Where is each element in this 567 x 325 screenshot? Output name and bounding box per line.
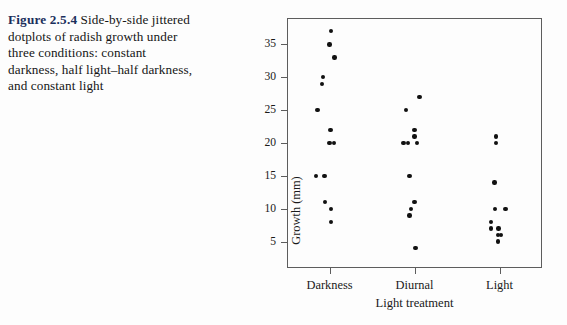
y-axis-tick xyxy=(281,44,287,45)
y-axis-tick-label: 30 xyxy=(254,71,276,83)
data-point xyxy=(332,141,336,145)
dotplot-chart: Growth (mm) 5101520253035 DarknessDiurna… xyxy=(0,0,567,325)
y-axis-title: Growth (mm) xyxy=(289,151,304,271)
data-point xyxy=(417,95,421,99)
data-point xyxy=(496,239,500,243)
data-point xyxy=(320,82,324,86)
x-axis-tick xyxy=(415,268,416,274)
y-axis-tick-label: 20 xyxy=(254,137,276,149)
data-point xyxy=(322,174,326,178)
data-point xyxy=(494,134,498,138)
x-axis-tick xyxy=(500,268,501,274)
y-axis-tick-label: 10 xyxy=(254,203,276,215)
data-point xyxy=(407,174,411,178)
y-axis-tick-label: 25 xyxy=(254,104,276,116)
y-axis-tick xyxy=(281,209,287,210)
data-point xyxy=(327,42,331,46)
data-point xyxy=(315,108,319,112)
data-point xyxy=(413,246,417,250)
y-axis-tick xyxy=(281,110,287,111)
data-point xyxy=(407,213,411,217)
data-point xyxy=(489,226,493,230)
data-point xyxy=(332,55,336,59)
x-axis-tick-label-darkness: Darkness xyxy=(285,278,375,293)
data-point xyxy=(406,141,410,145)
y-axis-tick xyxy=(281,176,287,177)
data-point xyxy=(496,226,500,230)
data-point xyxy=(328,128,332,132)
data-point xyxy=(401,141,405,145)
data-point xyxy=(492,180,496,184)
y-axis-tick-label: 5 xyxy=(254,236,276,248)
x-axis-tick-label-diurnal: Diurnal xyxy=(370,278,460,293)
y-axis-tick xyxy=(281,77,287,78)
y-axis-tick xyxy=(281,143,287,144)
x-axis-tick-label-light: Light xyxy=(455,278,545,293)
data-point xyxy=(412,128,416,132)
data-point xyxy=(412,134,416,138)
x-axis-tick xyxy=(330,268,331,274)
data-point xyxy=(503,207,507,211)
x-axis-title: Light treatment xyxy=(287,296,542,311)
y-axis-tick-label: 35 xyxy=(254,38,276,50)
y-axis-tick xyxy=(281,242,287,243)
y-axis-tick-label: 15 xyxy=(254,170,276,182)
